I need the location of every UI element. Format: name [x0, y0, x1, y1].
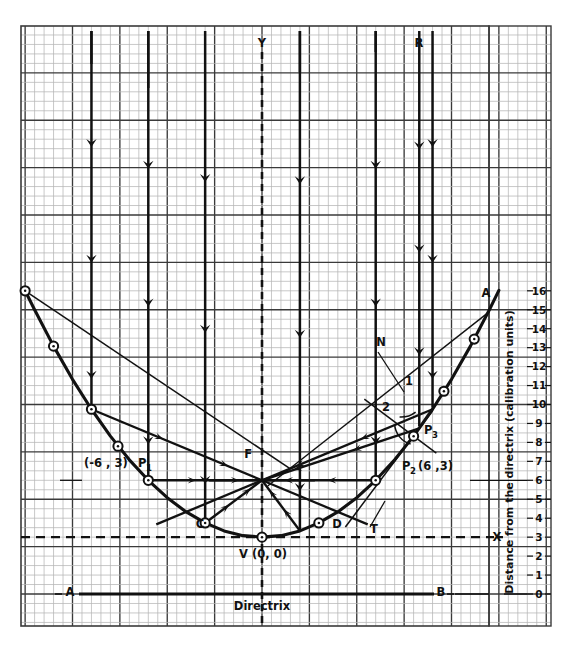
point-d-label: D: [332, 517, 342, 531]
y-tick-label: 12: [532, 360, 547, 372]
point-p1-subscript: 1: [146, 463, 152, 473]
directrix-label: Directrix: [234, 599, 291, 613]
point-c-label: C: [196, 517, 204, 531]
point-marker-center: [52, 345, 55, 348]
parabola-ray-diagram: 161514131211109876543210 Y R X N T F V (…: [0, 0, 572, 655]
y-axis-title: Distance from the directrix (calibration…: [503, 310, 516, 593]
y-tick-label: 7: [535, 455, 542, 467]
point-marker-center: [90, 408, 93, 411]
y-tick-label: 0: [535, 588, 542, 600]
y-tick-label: 16: [532, 285, 547, 297]
directrix-left-label: A: [66, 585, 75, 599]
point-marker-center: [24, 290, 27, 293]
point-marker-center: [412, 435, 415, 438]
diagram-canvas: 161514131211109876543210 Y R X N T F V (…: [0, 0, 572, 655]
point-p2-subscript: 2: [410, 466, 416, 476]
upper-right-ray-label: A: [482, 286, 491, 300]
y-tick-label: 1: [535, 569, 542, 581]
y-tick-label: 13: [532, 341, 547, 353]
y-tick-label: 4: [535, 512, 542, 524]
directrix-right-label: B: [437, 585, 446, 599]
focus-label: F: [244, 447, 252, 461]
y-tick-label: 11: [532, 379, 547, 391]
point-marker-center: [261, 536, 264, 539]
point-p3-subscript: 3: [432, 430, 438, 440]
point-marker-center: [318, 522, 321, 525]
y-tick-label: 10: [532, 398, 547, 410]
y-tick-label: 2: [535, 550, 542, 562]
y-tick-label: 5: [535, 493, 542, 505]
y-axis-letter-label: Y: [257, 36, 267, 50]
y-tick-label: 15: [532, 304, 547, 316]
y-tick-label: 14: [532, 323, 547, 335]
point-marker-center: [147, 479, 150, 482]
tangent-line-label: T: [370, 522, 378, 536]
point-marker-center: [473, 338, 476, 341]
point-p2-coords-label: (6 ,3): [418, 459, 453, 473]
y-tick-label: 8: [535, 436, 542, 448]
normal-line-label: N: [376, 335, 386, 349]
point-marker-center: [374, 479, 377, 482]
y-tick-label: 3: [535, 531, 542, 543]
point-marker-center: [204, 522, 207, 525]
angle-2-label: 2: [382, 400, 390, 414]
angle-1-label: 1: [405, 374, 413, 388]
y-tick-label: 6: [535, 474, 542, 486]
point-marker-center: [443, 390, 446, 393]
vertex-label: V (0, 0): [239, 547, 287, 561]
x-axis-letter-label: X: [493, 530, 502, 544]
y-tick-label: 9: [535, 417, 542, 429]
point-p1-coords-label: (-6 , 3): [84, 456, 128, 470]
axis-ray-label-r: R: [415, 36, 424, 50]
point-marker-center: [117, 445, 120, 448]
